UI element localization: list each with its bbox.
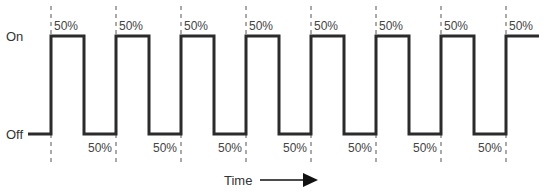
high-duty-labels: 50% 50% 50% 50% 50% 50% 50% 50%: [54, 19, 533, 33]
low-duty-labels: 50% 50% 50% 50% 50% 50% 50%: [88, 141, 502, 155]
square-wave: [28, 36, 539, 134]
duty-label-high: 50%: [54, 19, 78, 33]
duty-label-low: 50%: [153, 141, 177, 155]
pwm-diagram: On Off 50% 50% 50% 50% 50% 50% 50% 50% 5…: [0, 0, 547, 192]
time-arrow-icon: [260, 173, 318, 187]
time-label: Time: [224, 173, 252, 188]
off-label: Off: [6, 127, 23, 142]
on-label: On: [6, 29, 23, 44]
duty-label-high: 50%: [379, 19, 403, 33]
duty-label-high: 50%: [444, 19, 468, 33]
duty-label-high: 50%: [119, 19, 143, 33]
duty-label-low: 50%: [218, 141, 242, 155]
duty-label-high: 50%: [509, 19, 533, 33]
duty-label-high: 50%: [184, 19, 208, 33]
duty-label-high: 50%: [314, 19, 338, 33]
duty-label-low: 50%: [88, 141, 112, 155]
duty-label-low: 50%: [478, 141, 502, 155]
duty-label-low: 50%: [348, 141, 372, 155]
duty-label-high: 50%: [249, 19, 273, 33]
duty-label-low: 50%: [413, 141, 437, 155]
duty-label-low: 50%: [283, 141, 307, 155]
